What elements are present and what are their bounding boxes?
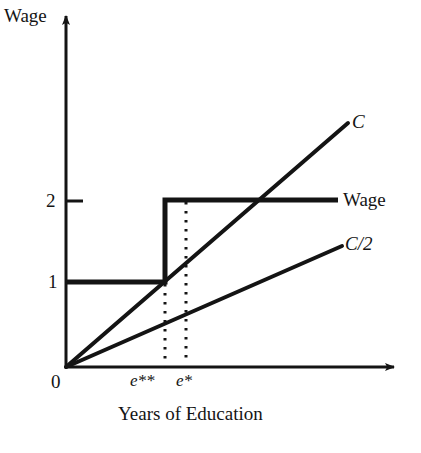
cost-line-c [66,123,348,367]
y-axis-title: Wage [4,6,47,25]
cost-line-c-half [66,246,342,367]
x-tick-label-e-star: e* [176,372,192,389]
signaling-model-figure: Wage 2 1 0 C Wage C/2 e** e* Years of Ed… [0,0,421,453]
origin-label: 0 [51,372,61,391]
curve-label-wage: Wage [343,190,386,209]
plot-canvas [0,0,421,453]
x-tick-label-e-double-star: e** [130,372,155,389]
x-axis-title: Years of Education [118,404,263,423]
curve-label-c-half: C/2 [345,234,372,253]
wage-schedule-step-line [66,200,338,282]
y-tick-label-2: 2 [46,191,56,210]
y-tick-label-1: 1 [48,272,58,291]
curve-label-c: C [352,112,365,131]
